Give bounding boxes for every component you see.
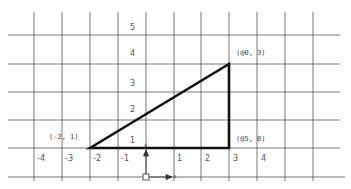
origin-marker-icon bbox=[143, 174, 149, 180]
x-tick-4: 4 bbox=[261, 155, 266, 163]
coordinate-grid bbox=[0, 0, 351, 189]
y-tick-3: 3 bbox=[130, 80, 135, 88]
x-tick-neg4: -4 bbox=[37, 155, 45, 163]
y-tick-4: 4 bbox=[130, 50, 135, 58]
axis-gizmo-y-label: y bbox=[144, 142, 148, 148]
x-tick-neg3: -3 bbox=[65, 155, 73, 163]
point-label-left: (-2, 1) bbox=[49, 134, 79, 141]
point-label-right: (@5, 0) bbox=[236, 136, 266, 143]
y-tick-5: 5 bbox=[130, 24, 135, 32]
y-tick-1: 1 bbox=[130, 137, 135, 145]
y-tick-2: 2 bbox=[130, 106, 135, 114]
x-tick-1: 1 bbox=[177, 155, 182, 163]
x-arrow-icon bbox=[166, 175, 172, 180]
x-tick-3: 3 bbox=[233, 155, 238, 163]
x-tick-neg1: -1 bbox=[121, 155, 129, 163]
axis-gizmo-x-label: x bbox=[173, 173, 177, 179]
right-triangle bbox=[90, 64, 229, 148]
x-tick-neg2: -2 bbox=[93, 155, 101, 163]
x-tick-2: 2 bbox=[205, 155, 210, 163]
axis-gizmo bbox=[143, 150, 172, 180]
y-arrow-icon bbox=[144, 150, 149, 156]
point-label-top: (@0, 3) bbox=[236, 50, 266, 57]
